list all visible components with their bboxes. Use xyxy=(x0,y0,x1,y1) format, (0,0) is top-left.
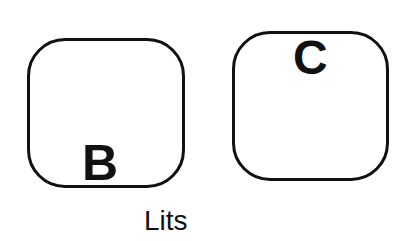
label-c: C xyxy=(293,34,328,82)
caption: Lits xyxy=(144,207,188,235)
label-b: B xyxy=(82,138,118,188)
